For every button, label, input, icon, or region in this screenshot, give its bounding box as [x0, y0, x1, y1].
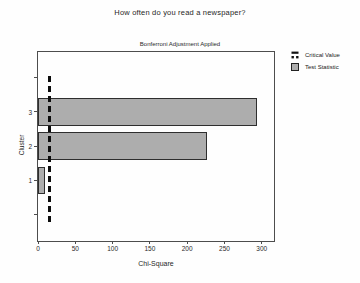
x-axis-tick-label: 0 — [36, 245, 40, 252]
bar-cluster-1 — [38, 167, 45, 194]
y-axis-tick — [34, 77, 38, 78]
plot-area: 050100150200250300123 — [37, 51, 275, 242]
x-axis-tick — [187, 241, 188, 244]
x-axis-tick-label: 150 — [144, 245, 155, 252]
y-axis-tick-label: 3 — [28, 108, 32, 115]
y-axis-tick-label: 1 — [28, 177, 32, 184]
y-axis-tick-label: 2 — [28, 143, 32, 150]
x-axis-label: Chi-Square — [138, 260, 173, 267]
y-axis-label: Cluster — [18, 135, 25, 156]
x-axis-tick-label: 200 — [182, 245, 193, 252]
x-axis-tick-label: 50 — [72, 245, 79, 252]
legend-item-critical-value: Critical Value — [291, 51, 340, 59]
legend-label-test-statistic: Test Statistic — [305, 64, 339, 70]
legend: Critical Value Test Statistic — [291, 51, 340, 71]
y-axis-tick — [34, 111, 38, 112]
x-axis-tick — [38, 241, 39, 244]
x-axis-tick — [224, 241, 225, 244]
critical-value-line — [48, 76, 51, 224]
legend-label-critical-value: Critical Value — [305, 52, 340, 58]
dashed-line-icon — [291, 51, 299, 59]
chart-title: How often do you read a newspaper? — [0, 8, 360, 17]
y-axis-tick — [34, 180, 38, 181]
x-axis-tick — [75, 241, 76, 244]
legend-item-test-statistic: Test Statistic — [291, 63, 340, 71]
x-axis-tick-label: 100 — [107, 245, 118, 252]
chart-subtitle: Bonferroni Adjustment Applied — [0, 41, 360, 47]
bar-cluster-3 — [38, 98, 257, 125]
x-axis-tick — [149, 241, 150, 244]
x-axis-tick-label: 250 — [219, 245, 230, 252]
x-axis-tick — [112, 241, 113, 244]
x-axis-tick — [261, 241, 262, 244]
y-axis-tick — [34, 214, 38, 215]
x-axis-tick-label: 300 — [256, 245, 267, 252]
bar-cluster-2 — [38, 132, 207, 159]
filled-square-icon — [291, 63, 299, 71]
chart-canvas: How often do you read a newspaper? Bonfe… — [0, 0, 360, 283]
y-axis-tick — [34, 146, 38, 147]
